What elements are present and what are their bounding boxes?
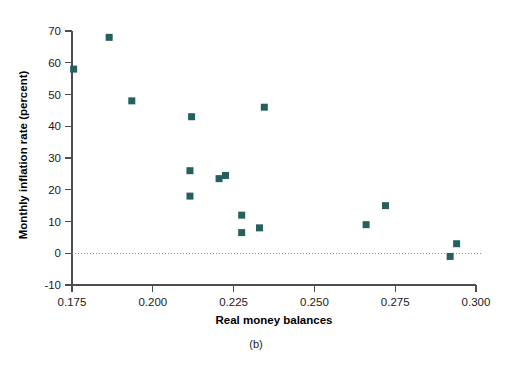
- y-axis-tick-label: 20: [48, 184, 61, 196]
- y-axis-title: Monthly inflation rate (percent): [17, 70, 29, 239]
- data-point-marker: [128, 97, 135, 104]
- y-axis-tick-label: 50: [48, 89, 61, 101]
- y-axis-tick-label: -10: [44, 279, 61, 291]
- y-axis-tick-label: 40: [48, 120, 61, 132]
- y-axis-tick-label: 70: [48, 25, 61, 37]
- y-axis-tick-label: 30: [48, 152, 61, 164]
- data-point-marker: [186, 193, 193, 200]
- panel-caption: (b): [249, 338, 262, 350]
- data-point-marker: [261, 104, 268, 111]
- x-axis-tick-label: 0.200: [138, 296, 167, 308]
- x-axis-tick-label: 0.175: [58, 296, 87, 308]
- data-point-marker: [70, 66, 77, 73]
- x-axis-tick-label: 0.300: [462, 296, 491, 308]
- data-point-marker: [453, 240, 460, 247]
- data-point-marker: [216, 175, 223, 182]
- data-point-marker: [186, 167, 193, 174]
- chart-canvas: -10010203040506070 0.1750.2000.2250.2500…: [0, 0, 513, 368]
- x-axis-title: Real money balances: [216, 314, 333, 326]
- x-axis-tick-label: 0.275: [381, 296, 410, 308]
- data-point-marker: [238, 212, 245, 219]
- x-axis-tick-label: 0.250: [300, 296, 329, 308]
- data-point-marker: [238, 229, 245, 236]
- data-point-marker: [222, 172, 229, 179]
- chart-background: [0, 0, 513, 368]
- data-point-marker: [106, 34, 113, 41]
- data-point-marker: [447, 253, 454, 260]
- y-axis-tick-label: 0: [55, 247, 61, 259]
- scatter-plot-figure: -10010203040506070 0.1750.2000.2250.2500…: [0, 0, 513, 368]
- x-axis-tick-label: 0.225: [219, 296, 248, 308]
- data-point-marker: [188, 113, 195, 120]
- y-axis-tick-label: 10: [48, 216, 61, 228]
- data-point-marker: [256, 224, 263, 231]
- data-point-marker: [363, 221, 370, 228]
- y-axis-tick-label: 60: [48, 57, 61, 69]
- data-point-marker: [382, 202, 389, 209]
